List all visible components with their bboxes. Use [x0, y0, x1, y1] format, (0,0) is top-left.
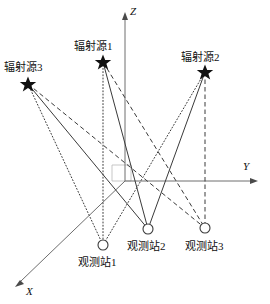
circle-icon-station1[interactable] [98, 240, 108, 250]
label-y-axis: Y [243, 161, 249, 172]
label-station3: 观测站3 [185, 240, 224, 252]
diagram-svg [0, 0, 270, 304]
ray-source3-station2 [28, 84, 148, 229]
label-source1: 辐射源1 [74, 40, 113, 52]
ray-group [28, 62, 205, 245]
ray-source3-station1 [28, 84, 103, 245]
origin-reference-box [112, 165, 131, 181]
circle-icon-station2[interactable] [143, 224, 153, 234]
ray-source3-station3 [28, 84, 205, 228]
diagram-canvas: 辐射源1 辐射源2 辐射源3 观测站1 观测站2 观测站3 Z Y X [0, 0, 270, 304]
z-axis-arrowhead [122, 12, 128, 20]
y-axis-arrowhead [250, 178, 258, 184]
x-axis-arrowhead [15, 280, 24, 287]
label-x-axis: X [26, 286, 33, 297]
star-icon-source1[interactable] [95, 55, 111, 70]
label-station1: 观测站1 [78, 256, 117, 268]
star-icon-source2[interactable] [197, 65, 213, 80]
label-station2: 观测站2 [127, 240, 166, 252]
label-source3: 辐射源3 [4, 61, 43, 73]
label-source2: 辐射源2 [181, 51, 220, 63]
circle-icon-station3[interactable] [200, 223, 210, 233]
label-z-axis: Z [130, 6, 136, 17]
ray-source1-station3 [103, 62, 205, 228]
ray-source2-station1 [103, 72, 205, 245]
